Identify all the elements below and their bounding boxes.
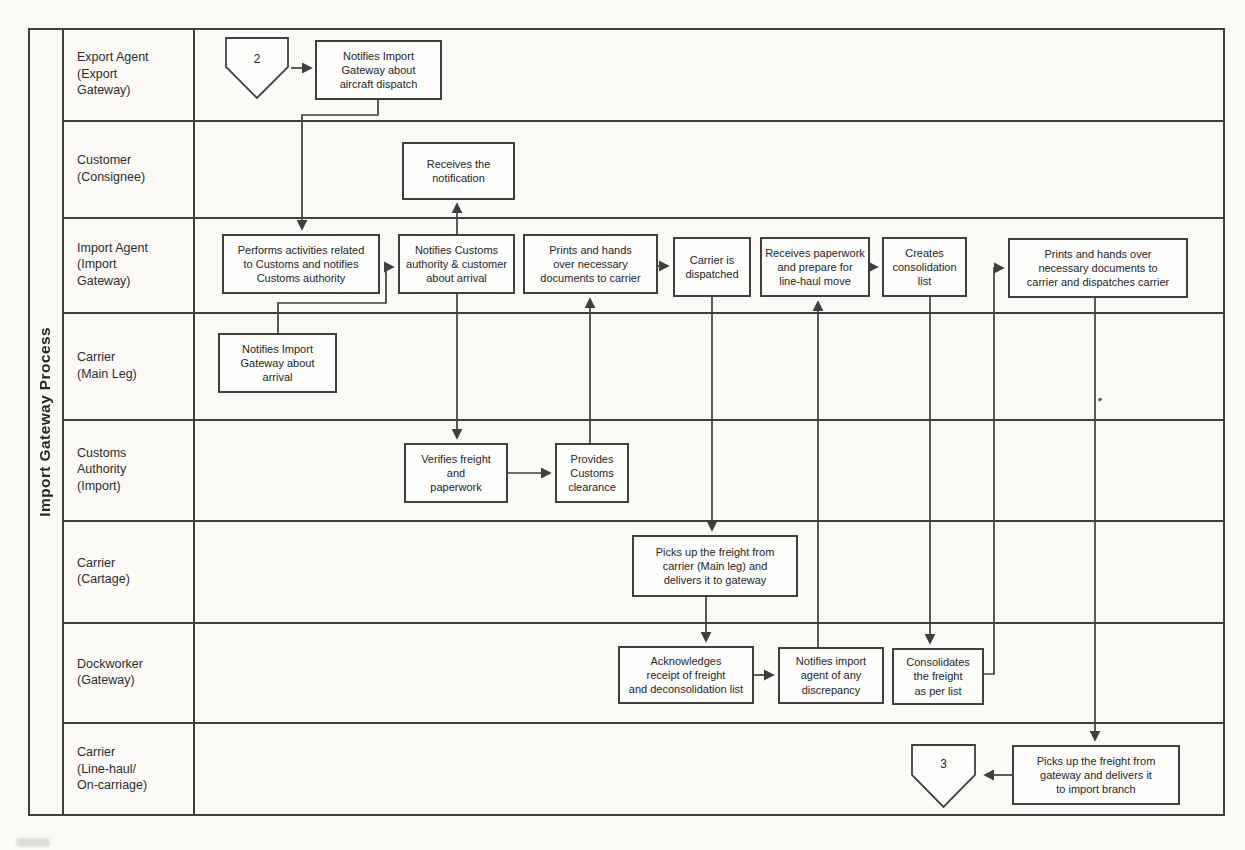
- lane-divider-4: [62, 419, 1225, 421]
- lane-divider-5: [62, 520, 1225, 522]
- flow-node-verifies-freight: Verifies freight and paperwork: [404, 443, 508, 503]
- lane-label-import-agent: Import Agent (Import Gateway): [64, 217, 192, 312]
- flow-node-notifies-customs-customer: Notifies Customs authority & customer ab…: [398, 234, 515, 294]
- flow-node-notifies-discrepancy: Notifies import agent of any discrepancy: [778, 647, 884, 704]
- swimlane-diagram: Import Gateway Process Export Agent (Exp…: [0, 0, 1245, 850]
- flow-node-picks-up-main-leg: Picks up the freight from carrier (Main …: [632, 535, 798, 597]
- off-page-connector-2-label: 2: [226, 52, 288, 66]
- flow-node-receives-notification: Receives the notification: [402, 142, 515, 200]
- lane-label-dockworker: Dockworker (Gateway): [64, 622, 192, 722]
- flow-node-prints-dispatches-carrier: Prints and hands over necessary document…: [1008, 238, 1188, 298]
- flow-node-provides-clearance: Provides Customs clearance: [555, 443, 629, 503]
- flow-node-notifies-arrival: Notifies Import Gateway about arrival: [218, 333, 337, 393]
- flow-node-picks-up-gateway: Picks up the freight from gateway and de…: [1012, 745, 1180, 805]
- lane-label-carrier-line-haul: Carrier (Line-haul/ On-carriage): [64, 722, 192, 816]
- flow-node-acknowledges-receipt: Acknowledges receipt of freight and deco…: [618, 646, 754, 704]
- lane-divider-2: [62, 217, 1225, 219]
- lane-divider-7: [62, 722, 1225, 724]
- flow-node-carrier-dispatched: Carrier is dispatched: [673, 237, 751, 297]
- lane-label-column-divider: [193, 28, 195, 816]
- flow-node-prints-hands-docs-carrier: Prints and hands over necessary document…: [523, 234, 658, 294]
- process-title: Import Gateway Process: [36, 327, 54, 517]
- flow-node-performs-customs-activities: Performs activities related to Customs a…: [222, 234, 380, 294]
- lane-label-export-agent: Export Agent (Export Gateway): [64, 28, 192, 120]
- lane-label-customer: Customer (Consignee): [64, 120, 192, 217]
- process-title-column: Import Gateway Process: [28, 28, 64, 816]
- lane-divider-1: [62, 120, 1225, 122]
- flow-node-consolidates-freight: Consolidates the freight as per list: [892, 648, 984, 705]
- lane-divider-3: [62, 312, 1225, 314]
- lane-label-carrier-cartage: Carrier (Cartage): [64, 520, 192, 622]
- flow-node-receives-paperwork: Receives paperwork and prepare for line-…: [760, 237, 870, 297]
- flow-node-creates-consolidation-list: Creates consolidation list: [882, 237, 967, 297]
- flow-node-notify-aircraft-dispatch: Notifies Import Gateway about aircraft d…: [315, 40, 442, 100]
- off-page-connector-3-label: 3: [912, 757, 975, 771]
- lane-divider-6: [62, 622, 1225, 624]
- scan-smudge: [16, 838, 50, 847]
- lane-label-customs-authority: Customs Authority (Import): [64, 419, 192, 520]
- lane-label-carrier-main-leg: Carrier (Main Leg): [64, 312, 192, 419]
